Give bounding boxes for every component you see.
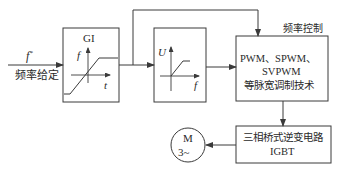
uf-x-label: f [194, 80, 197, 91]
input-label: 频率给定 [15, 70, 59, 81]
pwm-line3: 等脉宽调制技术 [244, 80, 314, 91]
pwm-caption: 频率控制 [283, 24, 323, 34]
uf-curve [171, 61, 190, 76]
gi-title: GI [83, 33, 95, 44]
gi-x-label: t [104, 80, 107, 91]
gi-y-label: f [77, 50, 80, 61]
inverter-line2: IGBT [270, 147, 295, 158]
pwm-line2: SVPWM [262, 67, 301, 78]
gi-ramp-curve [64, 58, 118, 94]
inverter-line1: 三相桥式逆变电路 [243, 132, 323, 143]
uf-y-label: U [158, 47, 166, 58]
motor-label-phase: 3~ [178, 147, 189, 158]
pwm-line1: PWM、SPWM、 [240, 54, 316, 65]
motor-label-m: M [183, 133, 193, 144]
input-symbol: f* [26, 50, 33, 62]
